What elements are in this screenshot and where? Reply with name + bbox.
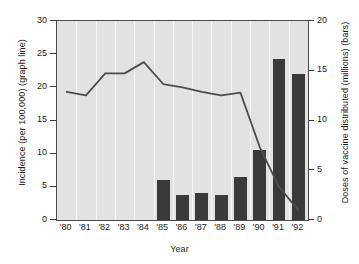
- tick-label-x-80: '80: [56, 223, 75, 232]
- tick-label-x-87: '87: [191, 223, 210, 232]
- chart-figure: Incidence (per 100,000) (graph line) Dos…: [0, 0, 359, 264]
- tick-label-x-82: '82: [95, 223, 114, 232]
- tick-label-right-5: 5: [317, 165, 322, 174]
- tick-label-left-10: 10: [37, 148, 47, 157]
- tick-label-right-20: 20: [317, 16, 327, 25]
- tick-label-left-0: 0: [42, 215, 47, 224]
- incidence-line: [67, 62, 299, 210]
- line-series: [57, 21, 308, 220]
- tick-label-x-91: '91: [268, 223, 287, 232]
- x-axis-title: Year: [0, 245, 359, 254]
- tick-label-left-15: 15: [37, 115, 47, 124]
- tick-label-x-92: '92: [288, 223, 307, 232]
- tick-label-right-15: 15: [317, 65, 327, 74]
- tick-label-left-5: 5: [42, 181, 47, 190]
- tick-label-x-88: '88: [210, 223, 229, 232]
- tick-label-left-30: 30: [37, 16, 47, 25]
- tick-label-x-85: '85: [153, 223, 172, 232]
- tick-label-x-90: '90: [249, 223, 268, 232]
- tick-label-x-81: '81: [75, 223, 94, 232]
- plot-area: [56, 20, 309, 221]
- tick-label-x-89: '89: [230, 223, 249, 232]
- y-axis-left-title: Incidence (per 100,000) (graph line): [18, 13, 27, 213]
- tick-label-x-83: '83: [114, 223, 133, 232]
- tick-label-left-25: 25: [37, 49, 47, 58]
- tick-label-right-0: 0: [317, 215, 322, 224]
- tick-label-x-86: '86: [172, 223, 191, 232]
- tick-label-right-10: 10: [317, 115, 327, 124]
- tick-label-left-20: 20: [37, 82, 47, 91]
- y-axis-right-title: Doses of vaccine distributed (millions) …: [341, 13, 350, 213]
- tick-label-x-84: '84: [133, 223, 152, 232]
